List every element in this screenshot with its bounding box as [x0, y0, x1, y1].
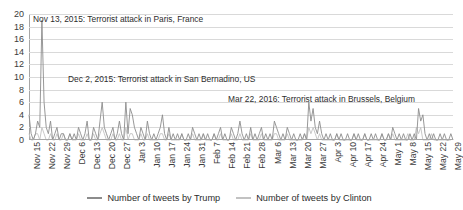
x-axis-tick-label: Jan 3 [138, 142, 147, 163]
x-axis-tick-label: Mar 6 [274, 142, 283, 164]
y-axis-tick-label: 6 [19, 98, 24, 107]
x-axis-tick-label: Jan 24 [183, 142, 192, 168]
y-axis-tick-label: 0 [19, 136, 24, 145]
x-axis-tick-label: Dec 27 [123, 142, 132, 169]
x-axis-tick-label: Feb 21 [243, 142, 252, 169]
legend-label-trump: Number of tweets by Trump [107, 193, 220, 203]
x-axis-tick-label: Nov 29 [63, 142, 72, 169]
x-axis-tick-label: Mar 13 [289, 142, 298, 169]
y-axis-tick-label: 10 [14, 73, 24, 82]
annotation-paris: Nov 13, 2015: Terrorist attack in Paris,… [33, 14, 203, 24]
x-axis-tick-label: Mar 20 [304, 142, 313, 169]
x-axis: Nov 15Nov 22Nov 29Dec 6Dec 13Dec 20Dec 2… [29, 142, 453, 188]
x-axis-tick-label: Dec 20 [108, 142, 117, 169]
y-axis: 02468101214161820 [0, 0, 27, 210]
x-axis-tick-label: Jan 17 [168, 142, 177, 168]
x-axis-tick-label: May 15 [424, 142, 433, 170]
legend-swatch-icon [236, 197, 251, 199]
x-axis-tick-label: May 1 [394, 142, 403, 165]
x-axis-tick-label: May 8 [409, 142, 418, 165]
x-axis-tick-label: Nov 15 [33, 142, 42, 169]
y-axis-tick-label: 2 [19, 123, 24, 132]
legend-item-trump[interactable]: Number of tweets by Trump [87, 193, 220, 203]
y-axis-tick-label: 12 [14, 60, 24, 69]
annotation-san-bernadino: Dec 2, 2015: Terrorist attack in San Ber… [68, 74, 255, 84]
x-axis-tick-label: Apr 3 [334, 142, 343, 163]
y-axis-tick-label: 20 [14, 10, 24, 19]
x-axis-tick-label: Apr 24 [379, 142, 388, 167]
x-axis-tick-label: Jan 31 [198, 142, 207, 168]
legend-item-clinton[interactable]: Number of tweets by Clinton [236, 193, 371, 203]
x-axis-tick-label: Apr 17 [364, 142, 373, 167]
x-axis-tick-label: Feb 28 [258, 142, 267, 169]
legend: Number of tweets by Trump Number of twee… [0, 190, 459, 206]
x-axis-line [29, 139, 453, 140]
y-axis-tick-label: 16 [14, 35, 24, 44]
legend-swatch-icon [87, 197, 102, 199]
y-axis-tick-label: 8 [19, 86, 24, 95]
x-axis-tick-label: Mar 27 [319, 142, 328, 169]
x-axis-tick-label: Apr 10 [349, 142, 358, 167]
x-axis-tick-label: Dec 13 [93, 142, 102, 169]
legend-label-clinton: Number of tweets by Clinton [256, 193, 371, 203]
y-axis-tick-label: 14 [14, 48, 24, 57]
annotation-brussels: Mar 22, 2016: Terrorist attack in Brusse… [228, 94, 415, 104]
x-axis-tick-label: Jan 10 [153, 142, 162, 168]
x-axis-tick-label: May 29 [454, 142, 463, 170]
x-axis-tick-label: Dec 6 [78, 142, 87, 164]
x-axis-tick-label: May 22 [439, 142, 448, 170]
y-axis-tick-label: 18 [14, 23, 24, 32]
y-axis-tick-label: 4 [19, 111, 24, 120]
x-axis-tick-label: Nov 22 [48, 142, 57, 169]
x-axis-tick-label: Feb 7 [213, 142, 222, 164]
x-axis-tick-label: Feb 14 [228, 142, 237, 169]
